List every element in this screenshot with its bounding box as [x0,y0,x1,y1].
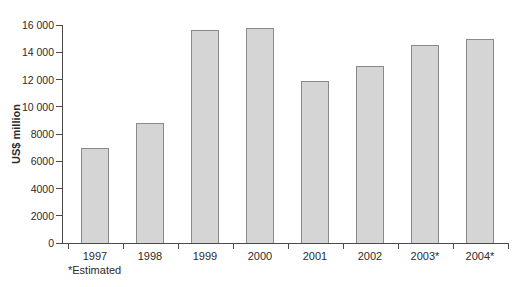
bar [81,148,109,243]
x-tick-mark [68,244,69,249]
x-axis-line [62,243,509,244]
x-tick-label: 2003* [398,250,452,262]
y-tick-mark [56,215,62,216]
y-tick-mark [56,243,62,244]
y-tick-mark [56,25,62,26]
x-tick-mark [398,244,399,249]
x-tick-label: 1998 [123,250,177,262]
bar [466,39,494,243]
bar [246,28,274,243]
x-tick-mark [453,244,454,249]
estimated-footnote: *Estimated [68,264,121,276]
x-tick-label: 2000 [233,250,287,262]
y-tick-label: 8000 [0,128,54,140]
x-tick-label: 2004* [453,250,507,262]
bar [411,45,439,243]
x-tick-label: 1997 [68,250,122,262]
x-tick-mark [233,244,234,249]
y-tick-mark [56,52,62,53]
y-tick-label: 0 [0,237,54,249]
x-tick-mark [508,244,509,249]
y-tick-label: 12 000 [0,74,54,86]
y-tick-mark [56,79,62,80]
bar [301,81,329,243]
y-axis-line [62,25,63,243]
y-tick-mark [56,161,62,162]
x-tick-mark [178,244,179,249]
y-tick-label: 6000 [0,155,54,167]
x-tick-mark [343,244,344,249]
x-tick-label: 2002 [343,250,397,262]
y-tick-label: 2000 [0,210,54,222]
y-tick-label: 16 000 [0,19,54,31]
y-tick-mark [56,106,62,107]
bar [191,30,219,243]
y-tick-label: 10 000 [0,101,54,113]
x-tick-mark [288,244,289,249]
y-tick-mark [56,188,62,189]
x-tick-label: 2001 [288,250,342,262]
bar [136,123,164,243]
y-tick-label: 14 000 [0,46,54,58]
x-tick-mark [123,244,124,249]
y-tick-mark [56,134,62,135]
x-tick-label: 1999 [178,250,232,262]
bar [356,66,384,243]
y-tick-label: 4000 [0,183,54,195]
bar-chart: US$ million *Estimated 02000400060008000… [0,0,526,287]
